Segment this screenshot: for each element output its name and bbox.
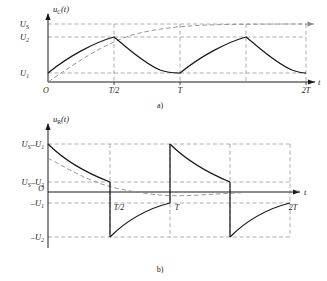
ytick-label-us-minus-u1: US–U1 [22,139,45,150]
panel-b-gridlines [48,144,290,237]
xaxis-title-b: t [304,187,307,197]
envelope-curve-b [48,158,299,196]
ytick-label-neg-u1: –U1 [30,198,44,209]
envelope-arrow-a [308,22,315,27]
xtick-label-t-half-b: T/2 [114,203,125,212]
y-axis-arrow-b [45,123,50,130]
figure-rc-waveforms: US U2 U1 uC(t) t O T/2 T 2T a) [0,0,327,281]
yaxis-title-a: uC(t) [53,4,69,15]
ytick-label-us: US [20,19,29,30]
y-axis-arrow-a [45,13,50,20]
xaxis-title-a: t [318,77,321,87]
resistor-voltage-curve [48,144,290,237]
capacitor-voltage-curve [48,37,306,73]
xtick-label-t-half-a: T/2 [109,86,120,95]
xtick-label-2t-b: 2T [289,203,298,212]
xtick-label-t-b: T [175,203,180,212]
origin-label-a: O [43,86,49,95]
panel-b-caption: b) [157,265,164,274]
x-axis-arrow-b [293,189,300,194]
panel-a: US U2 U1 uC(t) t O T/2 T 2T a) [20,4,321,110]
ytick-label-u2: U2 [20,32,29,43]
origin-label-b: O [38,184,44,193]
ytick-label-neg-u2: –U2 [30,232,44,243]
xtick-label-t-a: T [178,86,183,95]
xtick-label-2t-a: 2T [302,86,311,95]
panel-b-axes [48,124,300,248]
panel-a-caption: a) [157,101,164,110]
x-axis-arrow-a [308,79,315,84]
yaxis-title-b: uR(t) [53,114,69,125]
panel-b: US–U1 US–U2 O –U1 –U2 uR(t) t T/2 T 2T b… [22,114,307,274]
decay-seg-2 [170,144,230,182]
rise-seg-2 [230,203,290,237]
waveform-diagram: US U2 U1 uC(t) t O T/2 T 2T a) [0,0,327,281]
ytick-label-u1: U1 [20,68,29,79]
